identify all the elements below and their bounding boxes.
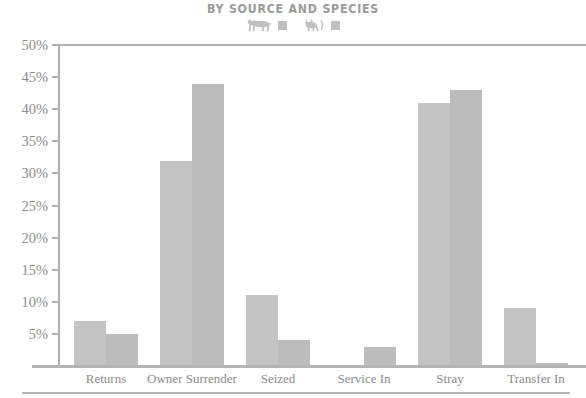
x-axis-label-returns: Returns [86, 371, 126, 387]
legend-entry-dog[interactable] [246, 18, 287, 32]
bar-chart: BY SOURCE AND SPECIES 50%45%40%35%30%25%… [0, 0, 586, 398]
y-axis-tick [52, 301, 59, 303]
x-axis-label-owner-surrender: Owner Surrender [147, 371, 237, 387]
y-axis-tick [52, 108, 59, 110]
legend-swatch [278, 21, 287, 30]
bars-layer [60, 45, 586, 366]
y-axis-tick [52, 172, 59, 174]
y-axis-label: 15% [0, 261, 48, 278]
dog-icon [246, 18, 272, 32]
bar-cats-seized[interactable] [278, 340, 310, 366]
x-axis-label-stray: Stray [436, 371, 463, 387]
y-axis-label: 5% [0, 325, 48, 342]
y-axis-label: 40% [0, 101, 48, 118]
y-axis-tick [52, 76, 59, 78]
y-axis-tick [52, 237, 59, 239]
bar-dogs-transfer-in[interactable] [504, 308, 536, 366]
bar-dogs-stray[interactable] [418, 103, 450, 366]
x-axis-label-transfer-in: Transfer In [507, 371, 565, 387]
y-axis-label: 45% [0, 69, 48, 86]
bar-dogs-returns[interactable] [74, 321, 106, 366]
y-axis-tick [52, 205, 59, 207]
bar-cats-stray[interactable] [450, 90, 482, 366]
legend-entry-cat[interactable] [303, 18, 340, 32]
y-axis-label: 25% [0, 197, 48, 214]
y-axis-label: 20% [0, 229, 48, 246]
chart-title: BY SOURCE AND SPECIES [35, 1, 551, 16]
x-axis-label-service-in: Service In [337, 371, 390, 387]
bar-dogs-seized[interactable] [246, 295, 278, 366]
bar-cats-service-in[interactable] [364, 347, 396, 366]
chart-legend [0, 18, 586, 32]
bar-cats-owner-surrender[interactable] [192, 84, 224, 366]
y-axis-label: 30% [0, 165, 48, 182]
bar-cats-returns[interactable] [106, 334, 138, 366]
y-axis-tick [52, 269, 59, 271]
cat-icon [303, 18, 325, 32]
y-axis-tick [52, 44, 59, 46]
x-axis-label-seized: Seized [261, 371, 296, 387]
bottom-rule [22, 392, 570, 394]
legend-swatch [331, 21, 340, 30]
bar-dogs-owner-surrender[interactable] [160, 161, 192, 366]
y-axis-label: 50% [0, 37, 48, 54]
x-axis-baseline [32, 365, 586, 368]
y-axis-label: 10% [0, 293, 48, 310]
y-axis-tick [52, 140, 59, 142]
y-axis-label: 35% [0, 133, 48, 150]
y-axis-tick [52, 333, 59, 335]
